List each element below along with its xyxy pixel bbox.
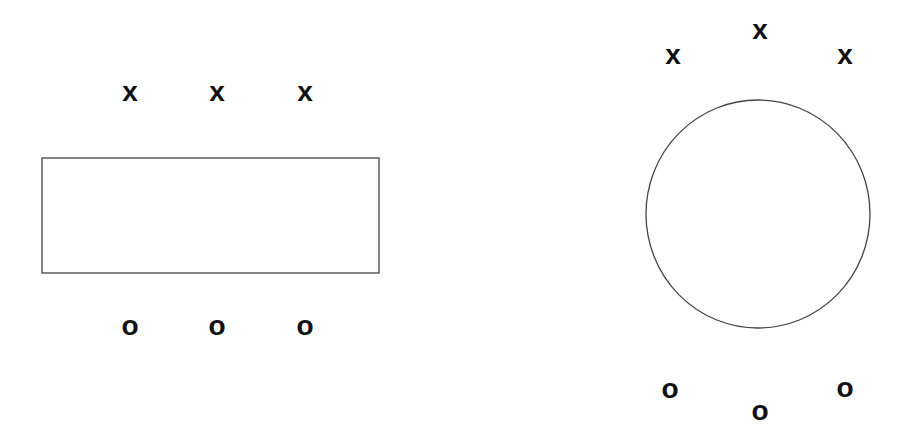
left-o-mark-3: o [296, 312, 313, 340]
rectangle-shape [42, 158, 379, 273]
left-x-mark-1: x [122, 78, 138, 106]
right-o-mark-1: o [661, 375, 678, 403]
right-x-mark-3: x [837, 41, 853, 69]
left-o-mark-1: o [121, 312, 138, 340]
left-x-mark-2: x [209, 78, 225, 106]
right-o-mark-3: o [836, 374, 853, 402]
right-x-mark-2: x [752, 16, 768, 44]
left-x-mark-3: x [297, 78, 313, 106]
right-x-mark-1: x [665, 41, 681, 69]
circle-shape [646, 100, 870, 328]
diagram-canvas [0, 0, 900, 447]
left-o-mark-2: o [208, 312, 225, 340]
right-o-mark-2: o [751, 397, 768, 425]
